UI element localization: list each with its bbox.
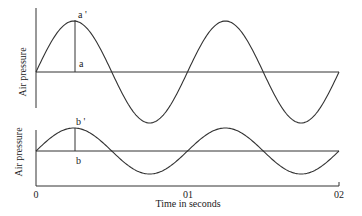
x-axis-label: Time in seconds [155,198,220,209]
upper-base-label: a [79,58,84,69]
lower-base-label: b [76,155,81,166]
lower-panel: b ' b Air pressure [13,116,339,186]
x-tick-2: 02 [334,189,344,200]
sound-wave-diagram: a ' a Air pressure b ' b Air pressure 0 … [0,0,362,216]
lower-peak-label: b ' [76,116,86,127]
upper-peak-label: a ' [78,9,87,20]
upper-panel: a ' a Air pressure [17,8,339,123]
x-axis: 0 01 02 Time in seconds [34,182,345,209]
lower-y-label: Air pressure [13,127,24,177]
upper-y-label: Air pressure [17,47,28,97]
x-tick-0: 0 [34,189,39,200]
